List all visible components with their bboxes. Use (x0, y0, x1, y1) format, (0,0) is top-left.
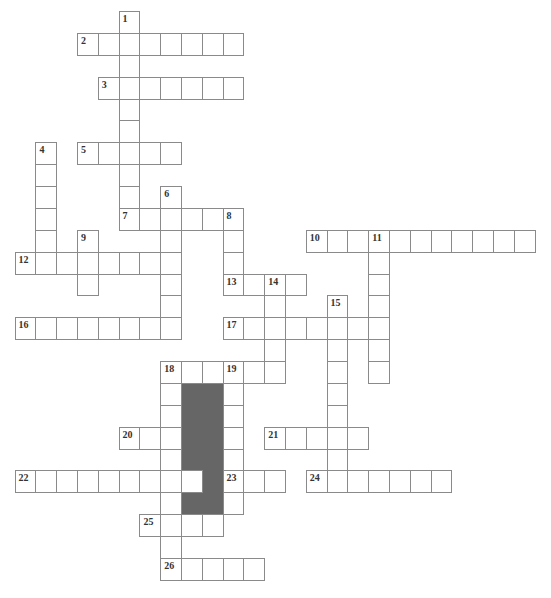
crossword-cell[interactable]: 8 (223, 208, 245, 231)
crossword-cell[interactable]: 6 (160, 186, 182, 209)
crossword-cell[interactable] (77, 470, 99, 493)
crossword-cell[interactable] (181, 33, 203, 56)
crossword-cell[interactable] (202, 514, 224, 537)
crossword-cell[interactable] (119, 99, 141, 122)
crossword-cell[interactable]: 2 (77, 33, 99, 56)
crossword-cell[interactable] (264, 295, 286, 318)
crossword-cell[interactable] (139, 317, 161, 340)
crossword-cell[interactable] (139, 470, 161, 493)
crossword-cell[interactable] (160, 142, 182, 165)
crossword-cell[interactable] (160, 492, 182, 515)
crossword-cell[interactable] (77, 252, 99, 275)
crossword-cell[interactable] (389, 230, 411, 253)
crossword-cell[interactable]: 11 (368, 230, 390, 253)
crossword-cell[interactable]: 7 (119, 208, 141, 231)
crossword-cell[interactable]: 21 (264, 427, 286, 450)
crossword-cell[interactable] (327, 361, 349, 384)
crossword-cell[interactable] (327, 470, 349, 493)
crossword-cell[interactable] (202, 77, 224, 100)
crossword-cell[interactable] (223, 383, 245, 406)
crossword-cell[interactable]: 13 (223, 274, 245, 297)
crossword-cell[interactable] (223, 449, 245, 472)
crossword-cell[interactable] (347, 230, 369, 253)
crossword-cell[interactable] (264, 339, 286, 362)
crossword-cell[interactable] (35, 317, 57, 340)
crossword-cell[interactable] (35, 470, 57, 493)
crossword-cell[interactable] (98, 252, 120, 275)
crossword-cell[interactable] (35, 230, 57, 253)
crossword-cell[interactable] (119, 55, 141, 78)
crossword-cell[interactable] (119, 317, 141, 340)
crossword-cell[interactable]: 5 (77, 142, 99, 165)
crossword-cell[interactable] (181, 514, 203, 537)
crossword-cell[interactable] (368, 252, 390, 275)
crossword-cell[interactable]: 14 (264, 274, 286, 297)
crossword-cell[interactable] (139, 208, 161, 231)
crossword-cell[interactable]: 25 (139, 514, 161, 537)
crossword-cell[interactable] (139, 142, 161, 165)
crossword-cell[interactable] (223, 33, 245, 56)
crossword-cell[interactable] (223, 492, 245, 515)
crossword-cell[interactable] (56, 317, 78, 340)
crossword-cell[interactable] (347, 317, 369, 340)
crossword-cell[interactable]: 24 (306, 470, 328, 493)
crossword-cell[interactable] (139, 33, 161, 56)
crossword-cell[interactable] (223, 77, 245, 100)
crossword-cell[interactable] (160, 470, 182, 493)
crossword-cell[interactable] (98, 33, 120, 56)
crossword-cell[interactable] (139, 252, 161, 275)
crossword-cell[interactable] (264, 317, 286, 340)
crossword-cell[interactable] (35, 252, 57, 275)
crossword-cell[interactable]: 12 (15, 252, 37, 275)
crossword-cell[interactable]: 15 (327, 295, 349, 318)
crossword-cell[interactable] (431, 470, 453, 493)
crossword-cell[interactable] (368, 361, 390, 384)
crossword-cell[interactable] (410, 230, 432, 253)
crossword-cell[interactable] (264, 361, 286, 384)
crossword-cell[interactable] (306, 317, 328, 340)
crossword-cell[interactable] (160, 317, 182, 340)
crossword-cell[interactable] (223, 252, 245, 275)
crossword-cell[interactable] (368, 295, 390, 318)
crossword-cell[interactable] (327, 383, 349, 406)
crossword-cell[interactable] (347, 427, 369, 450)
crossword-cell[interactable] (160, 208, 182, 231)
crossword-cell[interactable] (181, 77, 203, 100)
crossword-cell[interactable] (243, 274, 265, 297)
crossword-cell[interactable] (139, 427, 161, 450)
crossword-cell[interactable] (202, 208, 224, 231)
crossword-cell[interactable] (160, 449, 182, 472)
crossword-cell[interactable] (389, 470, 411, 493)
crossword-cell[interactable] (243, 470, 265, 493)
crossword-cell[interactable] (160, 295, 182, 318)
crossword-cell[interactable] (119, 142, 141, 165)
crossword-cell[interactable] (368, 470, 390, 493)
crossword-cell[interactable] (327, 427, 349, 450)
crossword-cell[interactable]: 4 (35, 142, 57, 165)
crossword-cell[interactable] (35, 208, 57, 231)
crossword-cell[interactable] (431, 230, 453, 253)
crossword-cell[interactable] (223, 405, 245, 428)
crossword-cell[interactable] (243, 317, 265, 340)
crossword-cell[interactable] (202, 33, 224, 56)
crossword-cell[interactable] (56, 470, 78, 493)
crossword-cell[interactable] (181, 361, 203, 384)
crossword-cell[interactable]: 19 (223, 361, 245, 384)
crossword-cell[interactable] (264, 470, 286, 493)
crossword-cell[interactable] (98, 470, 120, 493)
crossword-cell[interactable] (327, 405, 349, 428)
crossword-cell[interactable] (285, 274, 307, 297)
crossword-cell[interactable] (223, 230, 245, 253)
crossword-cell[interactable] (77, 317, 99, 340)
crossword-cell[interactable] (139, 77, 161, 100)
crossword-cell[interactable] (160, 230, 182, 253)
crossword-cell[interactable] (327, 317, 349, 340)
crossword-cell[interactable]: 17 (223, 317, 245, 340)
crossword-cell[interactable]: 26 (160, 558, 182, 581)
crossword-cell[interactable]: 20 (119, 427, 141, 450)
crossword-cell[interactable]: 22 (15, 470, 37, 493)
crossword-cell[interactable] (119, 77, 141, 100)
crossword-cell[interactable] (56, 252, 78, 275)
crossword-cell[interactable] (119, 120, 141, 143)
crossword-cell[interactable] (119, 252, 141, 275)
